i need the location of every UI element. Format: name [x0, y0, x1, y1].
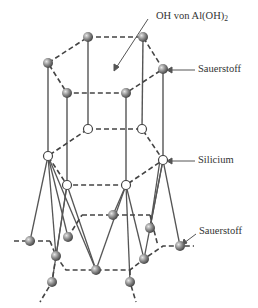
label-sauerstoff-bottom: Sauerstoff — [199, 225, 242, 236]
label-oh-von-aloh2: OH von Al(OH)2 — [156, 10, 228, 23]
vertical-bonds — [48, 37, 163, 185]
tetrahedral-bonds — [30, 156, 180, 282]
bottom-oxygen-atoms — [25, 210, 185, 287]
silicon-atoms — [44, 125, 168, 190]
label-oh-text: OH von Al(OH) — [156, 10, 224, 21]
label-oh-subscript: 2 — [224, 14, 228, 23]
label-sauerstoff-top: Sauerstoff — [198, 63, 241, 74]
label-silicium: Silicium — [198, 154, 234, 165]
top-hexagon — [48, 37, 163, 93]
bottom-network — [14, 215, 194, 302]
silicon-hexagon — [48, 129, 163, 185]
oh-atoms — [43, 32, 168, 98]
